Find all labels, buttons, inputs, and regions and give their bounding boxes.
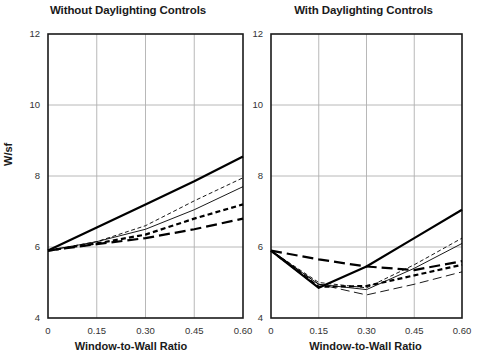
x-tick-label: 0.45 (394, 325, 434, 336)
chart-panel-without-daylighting: Without Daylighting Controls W/sf Window… (0, 0, 250, 363)
y-tick-label: 10 (241, 99, 263, 110)
y-tick-label: 8 (16, 170, 40, 181)
y-tick-label: 4 (16, 312, 40, 323)
plot-area-right (250, 0, 487, 363)
x-tick-label: 0.15 (77, 325, 117, 336)
x-tick-label: 0.15 (299, 325, 339, 336)
y-tick-label: 6 (241, 241, 263, 252)
y-tick-label: 10 (16, 99, 40, 110)
y-tick-label: 4 (241, 312, 263, 323)
plot-area-left (0, 0, 250, 363)
figure-root: Without Daylighting Controls W/sf Window… (0, 0, 487, 363)
x-tick-label: 0.30 (126, 325, 166, 336)
y-tick-label: 6 (16, 241, 40, 252)
y-tick-label: 8 (241, 170, 263, 181)
y-tick-label: 12 (241, 28, 263, 39)
x-tick-label: 0.45 (174, 325, 214, 336)
x-tick-label: 0 (251, 325, 291, 336)
y-tick-label: 12 (16, 28, 40, 39)
x-tick-label: 0.60 (442, 325, 482, 336)
x-tick-label: 0.30 (347, 325, 387, 336)
chart-panel-with-daylighting: With Daylighting Controls Window-to-Wall… (250, 0, 487, 363)
x-tick-label: 0 (28, 325, 68, 336)
